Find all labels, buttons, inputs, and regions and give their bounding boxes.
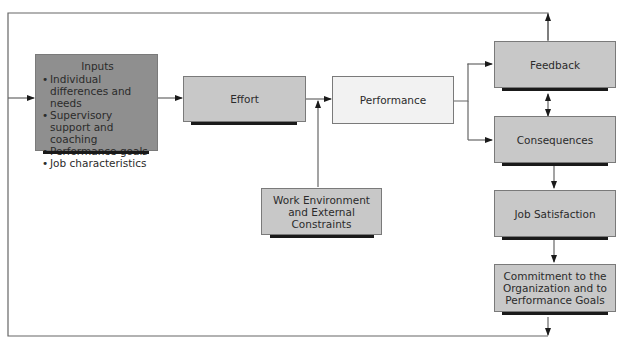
performance-box: Performance — [332, 76, 454, 124]
effort-box: Effort — [183, 76, 306, 122]
inputs-list: Individual differences and needs Supervi… — [42, 73, 153, 169]
commitment-shadow — [502, 312, 608, 315]
inputs-shadow — [43, 151, 149, 154]
inputs-item: Supervisory support and coaching — [42, 109, 153, 145]
consequences-shadow — [502, 163, 608, 166]
performance-label: Performance — [360, 94, 427, 106]
consequences-box: Consequences — [494, 116, 616, 163]
inputs-item: Individual differences and needs — [42, 73, 153, 109]
work-environment-box: Work Environment and External Constraint… — [261, 188, 382, 235]
work-environment-shadow — [270, 235, 374, 238]
consequences-label: Consequences — [517, 134, 593, 146]
commitment-box: Commitment to the Organization and to Pe… — [494, 264, 616, 312]
job-satisfaction-shadow — [502, 237, 608, 240]
effort-label: Effort — [230, 93, 259, 105]
effort-shadow — [191, 122, 297, 125]
job-satisfaction-label: Job Satisfaction — [514, 208, 595, 220]
work-environment-label: Work Environment and External Constraint… — [262, 194, 381, 230]
inputs-title: Inputs — [81, 60, 114, 72]
feedback-shadow — [502, 88, 608, 91]
commitment-label: Commitment to the Organization and to Pe… — [495, 270, 615, 306]
feedback-box: Feedback — [494, 41, 616, 88]
inputs-box: Inputs Individual differences and needs … — [35, 54, 158, 151]
inputs-item: Job characteristics — [42, 157, 153, 169]
job-satisfaction-box: Job Satisfaction — [494, 190, 616, 237]
feedback-label: Feedback — [530, 59, 580, 71]
